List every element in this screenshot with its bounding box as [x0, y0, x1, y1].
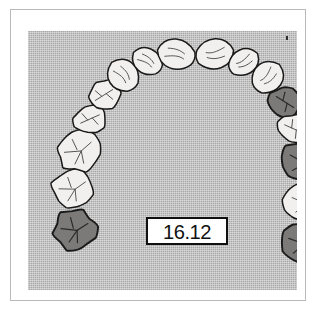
- tooth-upper-left-second-molar: [49, 166, 96, 211]
- tooth-upper-left-first-molar: [53, 125, 107, 179]
- tooth-outline: [53, 125, 107, 179]
- tooth-outline: [279, 181, 297, 225]
- figure-number-text: 16.12: [163, 221, 211, 242]
- tooth-outline: [49, 166, 96, 211]
- figure-page: 16.12: [0, 0, 327, 319]
- dental-arch-drawing: [28, 31, 297, 290]
- tooth-upper-left-third-molar: [50, 207, 101, 253]
- figure-number-box: 16.12: [146, 217, 228, 245]
- tooth-outline: [280, 221, 297, 265]
- tooth-upper-right-second-molar: [279, 181, 297, 225]
- tooth-upper-right-third-molar: [280, 221, 297, 265]
- halftone-plate: 16.12: [28, 31, 297, 290]
